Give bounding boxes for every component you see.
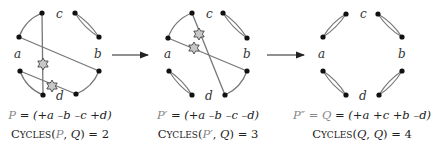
vertex-point	[320, 34, 325, 39]
chord-edge	[20, 71, 76, 94]
label-d: d	[205, 89, 213, 103]
vertex-point	[343, 11, 348, 16]
vertex-point	[16, 34, 21, 39]
label-a: a	[164, 47, 171, 61]
breakpoint-graph-figure: c a b d P = (+a –b –c +d) CYCLES(P, Q) =…	[0, 0, 434, 152]
label-a: a	[318, 47, 325, 61]
panel-p: c a b d P = (+a –b –c +d) CYCLES(P, Q) =…	[7, 7, 111, 141]
chord-edge	[192, 13, 225, 95]
vertex-point	[165, 35, 170, 40]
label-a: a	[14, 47, 21, 61]
chord-edge	[42, 13, 43, 95]
vertex-point	[244, 68, 249, 73]
vertex-point	[320, 68, 325, 73]
label-b: b	[94, 47, 102, 61]
double-edge	[169, 71, 192, 95]
vertex-point	[96, 68, 101, 73]
double-edge	[169, 71, 192, 95]
label-b: b	[243, 47, 251, 61]
chord-edge	[19, 37, 99, 71]
double-edge	[323, 14, 346, 37]
vertex-point	[189, 92, 194, 97]
label-d: d	[56, 89, 64, 103]
vertex-point	[40, 92, 45, 97]
label-b: b	[398, 47, 406, 61]
vertex-point	[244, 35, 249, 40]
vertex-point	[17, 68, 22, 73]
vertex-point	[166, 68, 171, 73]
vertex-point	[399, 34, 404, 39]
double-edge	[378, 14, 402, 37]
panel-q: c a b d P″ = Q = (+a +c +b –d) CYCLES(Q,…	[292, 7, 431, 141]
vertex-point	[222, 92, 227, 97]
label-c: c	[360, 7, 367, 21]
panel-p-prime: c a b d P′ = (+a –b –c –d) CYCLES(P′, Q)…	[156, 7, 259, 141]
vertex-point	[73, 91, 78, 96]
double-edge	[75, 13, 99, 37]
gray-edge-arc	[168, 13, 192, 38]
permutation-caption: P″ = Q = (+a +c +b –d)	[292, 108, 431, 122]
chord-edge	[168, 38, 247, 71]
vertex-point	[39, 10, 44, 15]
star-icon	[38, 58, 48, 70]
label-c: c	[206, 7, 213, 21]
double-edge	[323, 14, 346, 37]
gray-edge-arc	[19, 13, 42, 37]
double-edge	[323, 71, 346, 95]
double-edge	[379, 71, 402, 95]
vertex-point	[189, 10, 194, 15]
label-c: c	[56, 7, 63, 21]
cycles-caption: CYCLES(P′, Q) = 3	[158, 127, 259, 141]
double-edge	[378, 14, 402, 37]
vertex-point	[399, 68, 404, 73]
label-d: d	[359, 89, 367, 103]
vertex-point	[343, 92, 348, 97]
double-edge	[223, 13, 247, 38]
double-edge	[75, 13, 99, 37]
vertex-point	[72, 10, 77, 15]
double-edge	[223, 13, 247, 38]
gray-edge-arc	[225, 71, 247, 95]
vertex-point	[220, 10, 225, 15]
star-icon	[189, 42, 199, 54]
permutation-caption: P = (+a –b –c +d)	[7, 108, 111, 122]
permutation-caption: P′ = (+a –b –c –d)	[156, 108, 259, 122]
gray-edge-arc	[76, 71, 99, 94]
cycles-caption: CYCLES(P, Q) = 2	[11, 127, 109, 141]
vertex-point	[96, 34, 101, 39]
vertex-point	[375, 11, 380, 16]
cycles-caption: CYCLES(Q, Q) = 4	[312, 127, 412, 141]
double-edge	[323, 71, 346, 95]
double-edge	[379, 71, 402, 95]
gray-edge-arc	[20, 71, 43, 95]
vertex-point	[376, 92, 381, 97]
